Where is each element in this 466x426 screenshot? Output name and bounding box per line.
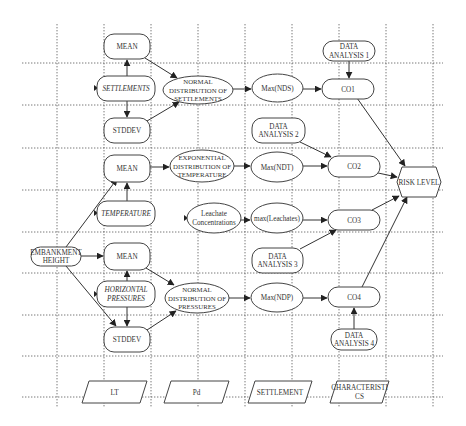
edge-da3-to-co3 [300,230,336,249]
node-maxnds[interactable]: Max(NDS) [252,74,303,102]
legend-pd: Pd [164,381,229,403]
node-label: DATA [340,43,359,51]
node-label: ANALYSIS 2 [258,131,299,139]
node-label: CO1 [341,86,355,94]
node-label: STDDEV [113,127,142,135]
node-label: HORIZONTAL [104,286,148,294]
node-stddev2[interactable]: STDDEV [104,327,150,352]
legend-characteristics: CHARACTERISTICS [330,381,389,403]
node-label: HEIGHT [43,257,70,265]
risk-flow-diagram: MEANSETTLEMENTSSTDDEVNORMALDISTRIBUTION … [0,0,466,426]
node-mean1[interactable]: MEAN [104,34,150,59]
node-da4[interactable]: DATAANALYSIS 4 [331,329,377,350]
node-label: Max(NDT) [261,164,294,172]
node-label: NORMAL [182,286,211,293]
node-risk[interactable]: RISK LEVEL [397,167,441,197]
node-label: EXPONENTIAL [178,154,225,161]
node-label: CO2 [347,163,361,171]
node-settlements[interactable]: SETTLEMENTS [97,76,155,101]
node-label: EMBANKMENT [30,249,82,257]
legend-settlement: SETTLEMENT [248,381,312,403]
node-label: CO4 [347,294,361,302]
node-label: STDDEV [113,336,142,344]
edge-mean1-to-nds [145,58,177,78]
node-label: Pd [193,389,201,397]
node-label: NORMAL [183,78,212,85]
node-label: PRESSURES [178,303,216,310]
node-nds[interactable]: NORMALDISTRIBUTION OFSETTLEMENTS [163,76,233,104]
nodes: MEANSETTLEMENTSSTDDEVNORMALDISTRIBUTION … [30,34,441,352]
node-da1[interactable]: DATAANALYSIS 1 [323,41,375,61]
node-label: MEAN [116,253,138,261]
legend-lt: LT [82,381,147,403]
node-label: DATA [269,123,288,131]
node-da3[interactable]: DATAANALYSIS 3 [252,248,303,273]
node-label: PRESSURES [106,295,145,303]
node-label: TEMPERATURE [178,171,227,178]
node-label: DISTRIBUTION OF [173,163,231,170]
node-label: ANALYSIS 1 [329,52,370,60]
node-label: CHARACTERISTI [331,384,388,392]
node-leachate[interactable]: LeachateConcentrations [187,203,241,233]
node-co1[interactable]: CO1 [322,79,374,99]
node-label: RISK LEVEL [399,179,440,187]
edge-stddev2-to-ndp [147,311,176,330]
node-label: CO3 [347,217,361,225]
node-temperature[interactable]: TEMPERATURE [97,201,155,226]
node-label: ANALYSIS 3 [257,261,298,269]
node-label: Leachate [201,210,227,218]
node-label: ANALYSIS 4 [334,340,375,348]
edge-co3-to-risk [372,196,399,210]
node-label: max(Leachates) [254,215,300,223]
node-maxleach[interactable]: max(Leachates) [251,203,303,233]
node-label: LT [110,389,119,397]
edge-co2-to-risk [378,173,397,177]
node-horizontal[interactable]: HORIZONTALPRESSURES [97,281,155,307]
node-label: SETTLEMENT [257,389,304,397]
node-co4[interactable]: CO4 [328,287,380,307]
node-ndt[interactable]: EXPONENTIALDISTRIBUTION OFTEMPERATURE [170,150,234,182]
edge-da2-to-co2 [300,142,331,157]
node-mean2[interactable]: MEAN [104,155,150,182]
node-label: DISTRIBUTION OF [169,87,227,94]
node-label: DISTRIBUTION OF [168,295,226,302]
node-mean3[interactable]: MEAN [104,243,150,270]
node-label: DATA [268,253,287,261]
node-co2[interactable]: CO2 [328,156,380,177]
node-maxndt[interactable]: Max(NDT) [251,152,303,182]
node-label: Max(NDP) [261,294,294,302]
node-maxndp[interactable]: Max(NDP) [251,283,303,312]
node-ndp[interactable]: NORMALDISTRIBUTION OFPRESSURES [165,283,229,313]
node-label: Concentrations [192,219,236,227]
node-stddev1[interactable]: STDDEV [104,118,150,143]
node-label: TEMPERATURE [101,210,151,218]
node-label: SETTLEMENTS [102,85,150,93]
node-label: CS [355,393,364,401]
node-embankment[interactable]: EMBANKMENTHEIGHT [30,247,82,266]
node-label: Max(NDS) [261,85,294,93]
node-label: MEAN [116,165,138,173]
node-label: DATA [345,332,364,340]
node-co3[interactable]: CO3 [328,210,380,230]
node-label: SETTLEMENTS [174,95,222,102]
node-da2[interactable]: DATAANALYSIS 2 [252,118,305,143]
node-label: MEAN [116,43,138,51]
legend: LTPdSETTLEMENTCHARACTERISTICS [82,381,389,403]
